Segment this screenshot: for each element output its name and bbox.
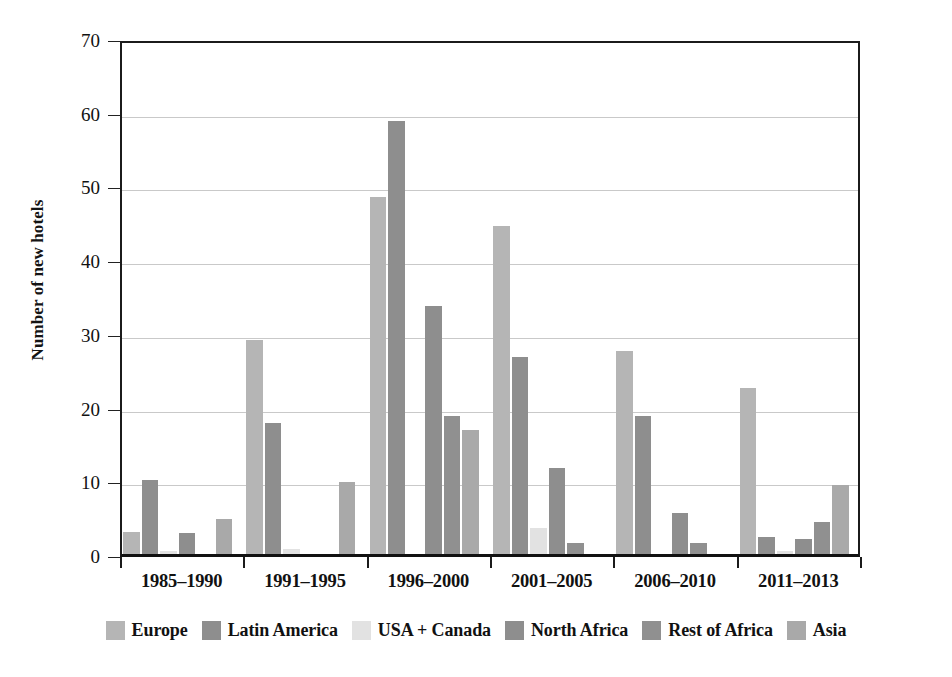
legend-swatch-icon	[505, 621, 524, 640]
bar	[814, 522, 831, 554]
y-axis-tick	[108, 115, 120, 116]
legend-swatch-icon	[202, 621, 221, 640]
legend-swatch-icon	[106, 621, 125, 640]
legend-item: Asia	[787, 620, 847, 641]
y-axis: 010203040506070	[0, 41, 120, 557]
y-axis-tick-label: 40	[81, 251, 100, 273]
bar-group	[122, 43, 245, 554]
bar	[530, 528, 547, 554]
chart-legend: EuropeLatin AmericaUSA + CanadaNorth Afr…	[0, 613, 952, 647]
bar	[216, 519, 233, 554]
bar	[160, 551, 177, 554]
x-axis: 1985–19901991–19951996–20002001–20052006…	[120, 557, 860, 597]
legend-item: Rest of Africa	[642, 620, 773, 641]
bar	[832, 485, 849, 554]
y-axis-tick-label: 10	[81, 472, 100, 494]
x-axis-tick-label: 1996–2000	[388, 571, 469, 592]
legend-item-label: Europe	[132, 620, 188, 641]
x-axis-tick	[367, 557, 369, 568]
legend-swatch-icon	[352, 621, 371, 640]
bar	[462, 430, 479, 554]
bar	[444, 416, 461, 554]
legend-swatch-icon	[787, 621, 806, 640]
y-axis-tick-label: 20	[81, 399, 100, 421]
bar	[795, 539, 812, 554]
y-axis-tick	[108, 41, 120, 42]
legend-item: USA + Canada	[352, 620, 491, 641]
y-axis-tick-label: 50	[81, 177, 100, 199]
x-axis-tick-label: 2006–2010	[634, 571, 715, 592]
y-axis-tick	[108, 483, 120, 484]
bar	[758, 537, 775, 554]
bar	[123, 532, 140, 554]
legend-item-label: Latin America	[228, 620, 338, 641]
y-axis-tick	[108, 410, 120, 411]
y-axis-tick	[108, 188, 120, 189]
y-axis-tick-label: 30	[81, 325, 100, 347]
bar-group	[245, 43, 368, 554]
bar	[740, 388, 757, 554]
bar	[777, 551, 794, 554]
x-axis-tick	[490, 557, 492, 568]
bar	[425, 306, 442, 554]
legend-item: North Africa	[505, 620, 628, 641]
legend-swatch-icon	[642, 621, 661, 640]
x-axis-tick	[860, 557, 862, 568]
x-axis-tick	[613, 557, 615, 568]
bar	[265, 423, 282, 554]
bar-group	[739, 43, 862, 554]
x-axis-tick-label: 2001–2005	[511, 571, 592, 592]
x-axis-tick-label: 1991–1995	[264, 571, 345, 592]
bar	[512, 357, 529, 554]
bar-group	[615, 43, 738, 554]
bar-group	[492, 43, 615, 554]
bar	[635, 416, 652, 554]
bar	[567, 543, 584, 554]
y-axis-tick-label: 60	[81, 104, 100, 126]
bar-chart-figure: Number of new hotels 010203040506070 198…	[0, 0, 952, 677]
bar-group	[369, 43, 492, 554]
bar	[690, 543, 707, 554]
x-axis-tick	[120, 557, 122, 568]
legend-item: Latin America	[202, 620, 338, 641]
bar	[283, 549, 300, 554]
bar-series-container	[122, 43, 858, 554]
y-axis-tick-label: 70	[81, 30, 100, 52]
bar	[179, 533, 196, 554]
bar	[616, 351, 633, 554]
legend-item-label: Asia	[813, 620, 847, 641]
bar	[370, 197, 387, 555]
legend-item: Europe	[106, 620, 188, 641]
legend-item-label: North Africa	[531, 620, 628, 641]
legend-item-label: Rest of Africa	[668, 620, 773, 641]
bar	[142, 480, 159, 554]
bar	[493, 226, 510, 554]
bar	[672, 513, 689, 554]
plot-area	[120, 41, 860, 557]
bar	[339, 482, 356, 554]
x-axis-tick	[243, 557, 245, 568]
y-axis-tick	[108, 336, 120, 337]
x-axis-tick-label: 2011–2013	[758, 571, 838, 592]
y-axis-tick	[108, 262, 120, 263]
bar	[246, 340, 263, 554]
x-axis-tick	[737, 557, 739, 568]
x-axis-tick-label: 1985–1990	[141, 571, 222, 592]
bar	[549, 468, 566, 554]
y-axis-tick-label: 0	[91, 546, 101, 568]
y-axis-tick	[108, 557, 120, 558]
bar	[388, 121, 405, 554]
legend-item-label: USA + Canada	[378, 620, 491, 641]
